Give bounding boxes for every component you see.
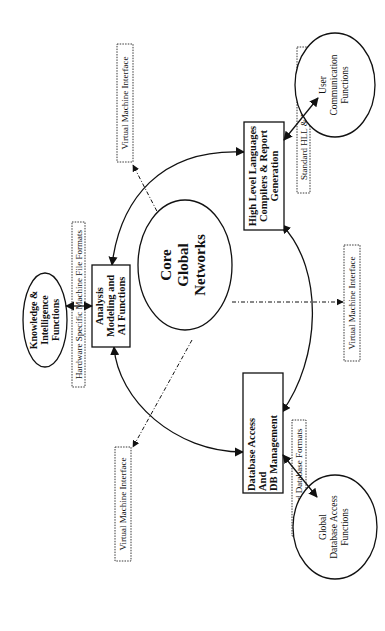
core-global-networks: Core Global Networks (138, 200, 232, 330)
vmi-bottom: Virtual Machine Interface (115, 447, 131, 561)
db-line-1: Database Access (246, 418, 257, 491)
svg-text:Knowledge &: Knowledge & (28, 291, 39, 350)
svg-text:Functions: Functions (340, 508, 350, 546)
svg-text:Virtual Machine Interface: Virtual Machine Interface (120, 57, 130, 150)
analysis-line-2: Modeling and (105, 275, 116, 337)
svg-text:Communication: Communication (329, 54, 339, 115)
svg-text:User: User (318, 75, 328, 94)
svg-text:Global: Global (318, 514, 328, 540)
core-line-1: Core (158, 249, 174, 281)
arc-hll-db (282, 225, 312, 412)
db-line-3: DB Management (268, 414, 279, 491)
global-database-access-functions: Global Database Access Functions (293, 475, 377, 579)
hll-module: High Level Languages Compilers & Report … (244, 122, 284, 230)
hardware-format-label: Hardware Specific Machine File Formats (72, 222, 85, 387)
analysis-line-1: Analysis (94, 287, 105, 325)
svg-text:Intelligence: Intelligence (39, 295, 50, 345)
analysis-line-3: AI Functions (116, 277, 127, 336)
svg-text:Virtual Machine Interface: Virtual Machine Interface (118, 458, 128, 551)
svg-text:Functions: Functions (340, 66, 350, 104)
database-module: Database Access And DB Management (243, 373, 283, 493)
arrow-to-bottom-vmi (133, 340, 192, 447)
vmi-right: Virtual Machine Interface (344, 245, 360, 361)
vmi-top: Virtual Machine Interface (117, 44, 133, 162)
core-line-2: Global (175, 243, 191, 286)
knowledge-functions: Knowledge & Intelligence Functions (23, 273, 67, 367)
user-communication-functions: User Communication Functions (295, 33, 375, 137)
analysis-module: Analysis Modeling and AI Functions (92, 265, 130, 347)
architecture-diagram: Core Global Networks Analysis Modeling a… (0, 0, 385, 631)
svg-text:Functions: Functions (50, 299, 61, 341)
arc-analysis-db (114, 347, 243, 452)
hll-line-1: High Level Languages (247, 126, 258, 226)
hll-line-2: Compilers & Report (258, 129, 269, 222)
db-line-2: And (257, 472, 268, 491)
core-line-3: Networks (192, 234, 208, 296)
svg-text:Hardware Specific Machine File: Hardware Specific Machine File Formats (74, 230, 84, 379)
svg-text:Database Access: Database Access (329, 495, 339, 559)
hll-line-3: Generation (269, 150, 280, 201)
svg-text:Virtual Machine Interface: Virtual Machine Interface (347, 257, 357, 350)
